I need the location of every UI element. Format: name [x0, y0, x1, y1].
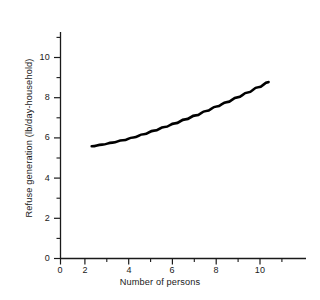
y-tick-label-8: 8	[32, 92, 50, 102]
x-tick-label-0: 0	[48, 265, 72, 275]
y-tick-label-10: 10	[32, 52, 50, 62]
y-tick-label-0: 0	[32, 253, 50, 263]
chart-figure: 10 8 6 4 2 0 0 2 4 6 8 10 Refuse generat…	[0, 0, 320, 300]
x-tick-label-10: 10	[248, 265, 272, 275]
x-axis-major-ticks	[61, 259, 261, 265]
data-series-line	[92, 82, 269, 146]
x-tick-label-2: 2	[73, 265, 97, 275]
x-tick-label-4: 4	[117, 265, 141, 275]
y-axis-title: Refuse generation (lb/day-household)	[24, 33, 34, 243]
x-tick-label-8: 8	[204, 265, 228, 275]
y-tick-label-6: 6	[32, 132, 50, 142]
y-tick-label-2: 2	[32, 213, 50, 223]
x-axis-title: Number of persons	[0, 277, 320, 287]
x-tick-label-6: 6	[160, 265, 184, 275]
y-tick-label-4: 4	[32, 173, 50, 183]
